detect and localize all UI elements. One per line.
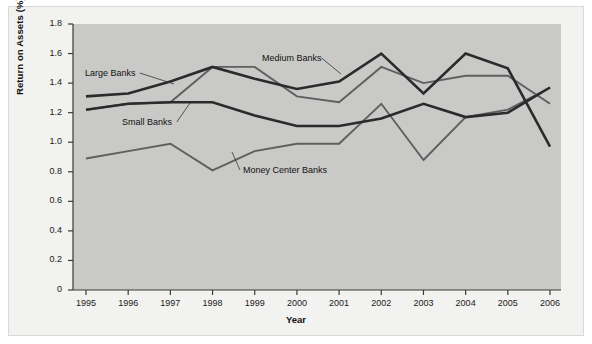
annotation-leader-line (322, 58, 341, 74)
annotation-leader-line (140, 73, 174, 84)
chart-page: Return on Assets (%) Year 00.20.40.60.81… (0, 0, 592, 344)
chart-svg (0, 0, 592, 344)
series-line-small-banks (86, 88, 550, 127)
annotation-leader-line (177, 103, 190, 122)
